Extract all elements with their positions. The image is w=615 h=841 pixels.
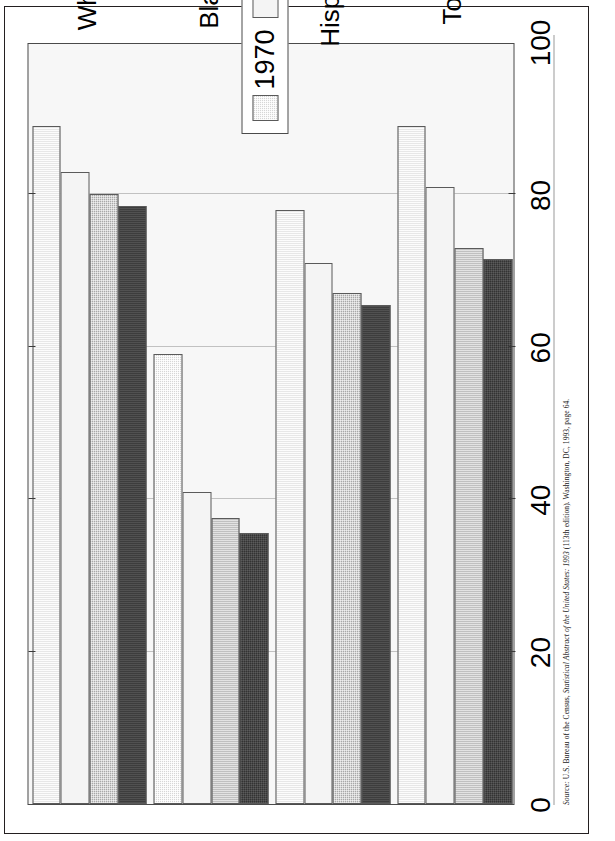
- axis-tick-mark: [508, 651, 515, 652]
- source-caption-head: U.S. Bureau of the Census,: [561, 693, 570, 779]
- source-caption-tail: (113th edition). Washington, DC, 1993, p…: [561, 399, 570, 552]
- bar-group: [397, 44, 512, 804]
- axis-tick-mark: [28, 498, 35, 499]
- legend-swatch-1980: [252, 0, 278, 18]
- bar-total-1992: [483, 259, 512, 804]
- caption-divider: [553, 35, 554, 805]
- source-caption-title: Statistical Abstract of the United State…: [561, 551, 570, 693]
- category-label-total: Total: [436, 0, 467, 24]
- axis-tick-mark: [508, 498, 515, 499]
- bar-black-1980: [182, 492, 211, 804]
- value-tick-label-20: 20: [524, 637, 556, 668]
- plot-area: [27, 43, 514, 805]
- bar-black-1990: [211, 518, 240, 804]
- bar-white-1970: [32, 126, 61, 804]
- bar-group: [153, 44, 268, 804]
- legend-label-1970: 1970: [249, 29, 280, 89]
- chart-legend: 1970198019901992: [241, 0, 288, 134]
- axis-tick-mark: [508, 346, 515, 347]
- bar-hispanic-1990: [332, 293, 361, 804]
- source-caption: Source: U.S. Bureau of the Census, Stati…: [561, 35, 570, 805]
- value-tick-label-80: 80: [524, 180, 556, 211]
- source-caption-label: Source:: [561, 781, 570, 805]
- bar-white-1992: [118, 206, 147, 804]
- bar-total-1970: [397, 126, 426, 804]
- document-frame: 020406080100 WhiteBlackHispanicTotal 197…: [4, 6, 589, 834]
- legend-entry-1970: 1970: [249, 29, 280, 121]
- category-label-hispanic: Hispanic: [314, 0, 345, 47]
- bar-chart: 020406080100 WhiteBlackHispanicTotal 197…: [27, 43, 514, 805]
- bar-black-1992: [239, 534, 268, 805]
- bar-white-1990: [89, 194, 118, 804]
- value-tick-label-40: 40: [524, 485, 556, 516]
- bar-white-1980: [60, 172, 89, 804]
- axis-tick-mark: [28, 193, 35, 194]
- figure-stage-wrapper: 020406080100 WhiteBlackHispanicTotal 197…: [5, 7, 590, 835]
- bar-group: [275, 44, 390, 804]
- rotated-figure-stage: 020406080100 WhiteBlackHispanicTotal 197…: [5, 7, 590, 835]
- value-tick-label-0: 0: [524, 797, 556, 813]
- bar-group: [32, 44, 147, 804]
- axis-tick-mark: [28, 346, 35, 347]
- bar-hispanic-1992: [361, 305, 390, 804]
- axis-tick-mark: [28, 651, 35, 652]
- bar-hispanic-1980: [304, 263, 333, 804]
- category-label-white: White: [71, 0, 102, 30]
- bar-total-1980: [425, 187, 454, 804]
- legend-swatch-1970: [252, 95, 278, 121]
- bar-total-1990: [454, 248, 483, 804]
- legend-entry-1980: 1980: [249, 0, 280, 18]
- value-tick-label-60: 60: [524, 332, 556, 363]
- screenshot-page: 020406080100 WhiteBlackHispanicTotal 197…: [0, 0, 615, 841]
- axis-tick-mark: [508, 193, 515, 194]
- category-label-black: Black: [193, 0, 224, 29]
- bar-hispanic-1970: [275, 210, 304, 804]
- value-tick-label-100: 100: [524, 20, 556, 67]
- bar-black-1970: [153, 354, 182, 804]
